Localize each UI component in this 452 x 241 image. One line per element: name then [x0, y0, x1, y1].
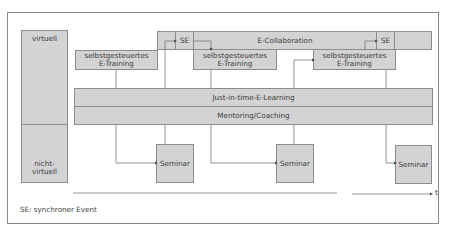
legend-text: SE: synchroner Event	[20, 205, 97, 214]
time-axis-label: t	[435, 188, 438, 197]
